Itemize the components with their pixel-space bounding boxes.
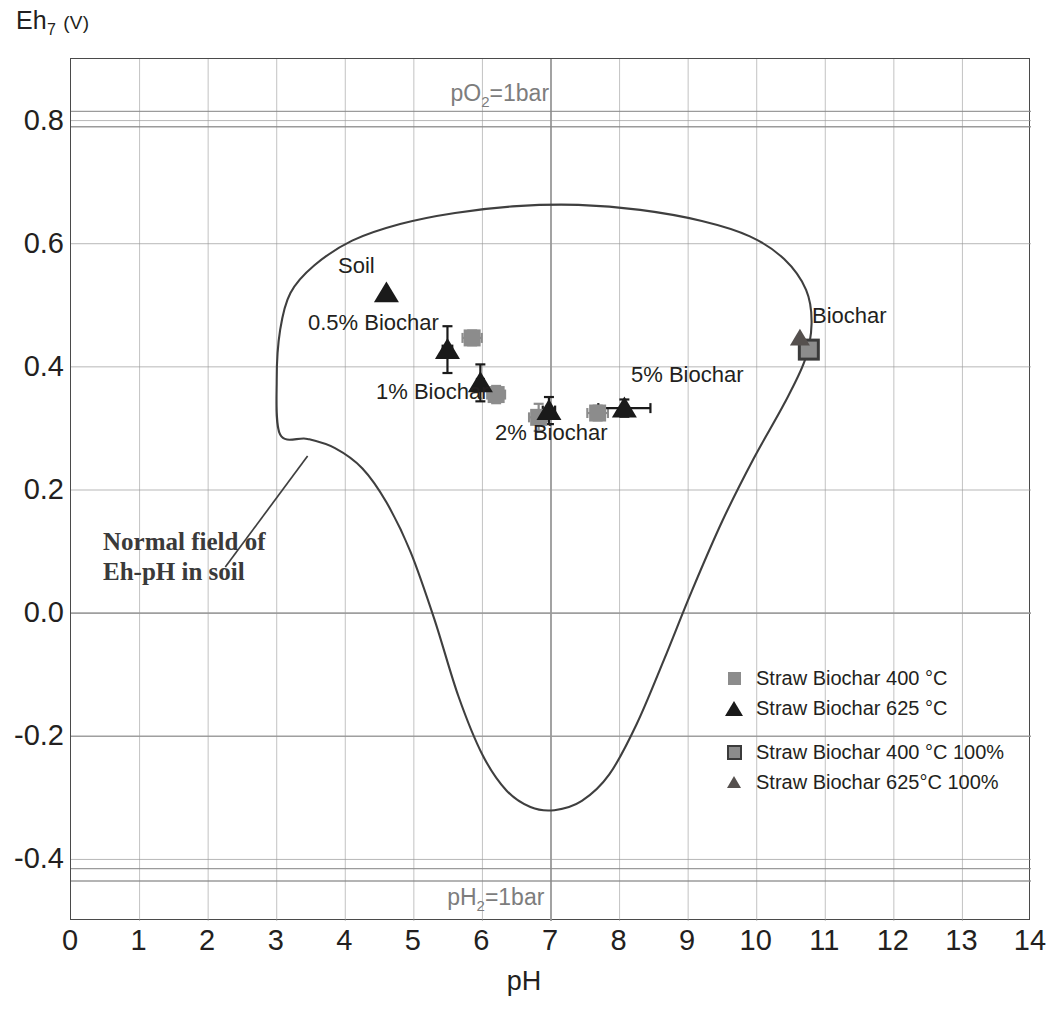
po2-label-subscript: 2 — [481, 93, 489, 110]
y-axis-tick-labels: 0.80.60.40.20.0-0.2-0.4 — [0, 0, 64, 1013]
datapoint-black-triangle-0-5-biochar — [435, 338, 460, 359]
x-tick-11: 11 — [809, 924, 839, 957]
y-tick--0.2: -0.2 — [14, 719, 64, 752]
legend-label-4: Straw Biochar 625°C 100% — [756, 771, 999, 794]
y-tick-0.8: 0.8 — [24, 103, 64, 136]
legend-swatch — [728, 672, 741, 685]
x-tick-14: 14 — [1014, 924, 1046, 957]
po2-line-label: pO2=1bar — [451, 80, 550, 110]
po2-label-prefix: pO — [451, 80, 482, 106]
x-tick-4: 4 — [336, 924, 352, 957]
envelope-annotation-line1: Normal field of — [103, 527, 265, 557]
data-label-biochar: Biochar — [812, 303, 887, 329]
x-tick-10: 10 — [740, 924, 772, 957]
legend-marker-gray-triangle-icon — [712, 776, 756, 788]
legend-marker-outlined-gray-square-icon — [712, 745, 756, 760]
legend-marker-black-triangle-icon — [712, 701, 756, 716]
eh-ph-chart-figure: Eh7 (V) 0.80.60.40.20.0-0.2-0.4 01234567… — [0, 0, 1048, 1013]
legend-swatch — [727, 776, 741, 788]
legend-item-2[interactable]: Straw Biochar 625 °C — [712, 693, 1004, 723]
legend-marker-small-gray-square-icon — [712, 672, 756, 685]
legend-item-1[interactable]: Straw Biochar 400 °C — [712, 663, 1004, 693]
y-tick-0.0: 0.0 — [24, 596, 64, 629]
envelope-annotation-line2: Eh-pH in soil — [103, 557, 265, 587]
ph2-label-subscript: 2 — [477, 897, 485, 914]
legend-label-1: Straw Biochar 400 °C — [756, 667, 947, 690]
datapoint-gray-triangle-biochar — [790, 329, 810, 346]
y-tick-0.6: 0.6 — [24, 226, 64, 259]
data-label-2-biochar: 2% Biochar — [495, 420, 608, 446]
legend-label-2: Straw Biochar 625 °C — [756, 697, 947, 720]
ph2-line-label: pH2=1bar — [447, 884, 544, 914]
ph2-label-prefix: pH — [447, 884, 476, 910]
x-tick-7: 7 — [542, 924, 558, 957]
x-tick-9: 9 — [679, 924, 695, 957]
legend-swatch — [725, 701, 743, 716]
legend-spacer — [712, 723, 1004, 737]
datapoint-black-triangle-soil — [374, 281, 399, 302]
data-label-0.5-biochar: 0.5% Biochar — [308, 310, 439, 336]
data-label-soil: Soil — [338, 253, 375, 279]
legend-label-3: Straw Biochar 400 °C 100% — [756, 741, 1004, 764]
y-tick--0.4: -0.4 — [14, 842, 64, 875]
ph2-label-suffix: =1bar — [485, 884, 544, 910]
legend-swatch — [727, 745, 742, 760]
po2-label-suffix: =1bar — [490, 80, 549, 106]
x-tick-5: 5 — [405, 924, 421, 957]
legend-item-4[interactable]: Straw Biochar 625°C 100% — [712, 767, 1004, 797]
y-axis-title-unit: (V) — [63, 12, 89, 33]
x-tick-3: 3 — [268, 924, 284, 957]
data-label-5-biochar: 5% Biochar — [631, 362, 744, 388]
legend: Straw Biochar 400 °CStraw Biochar 625 °C… — [712, 663, 1004, 797]
x-tick-13: 13 — [945, 924, 977, 957]
datapoint-small-gray-square-0-5-biochar — [464, 329, 481, 346]
datapoint-small-gray-square-5-biochar — [589, 405, 606, 422]
x-tick-6: 6 — [473, 924, 489, 957]
x-tick-2: 2 — [199, 924, 215, 957]
x-tick-0: 0 — [62, 924, 78, 957]
y-tick-0.4: 0.4 — [24, 349, 64, 382]
x-tick-1: 1 — [130, 924, 146, 957]
x-tick-8: 8 — [610, 924, 626, 957]
legend-item-3[interactable]: Straw Biochar 400 °C 100% — [712, 737, 1004, 767]
x-axis-title: pH — [0, 966, 1048, 997]
data-label-1-biochar: 1% Biochar — [376, 379, 489, 405]
x-tick-12: 12 — [877, 924, 909, 957]
envelope-annotation: Normal field of Eh-pH in soil — [103, 527, 265, 586]
y-tick-0.2: 0.2 — [24, 473, 64, 506]
